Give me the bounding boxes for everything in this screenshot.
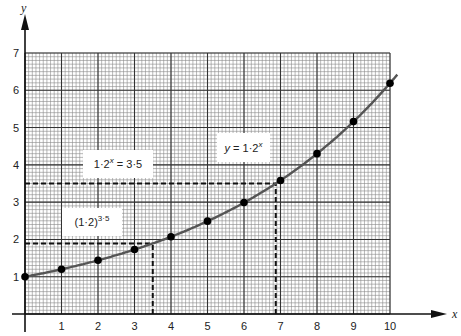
x-tick-label: 3: [131, 320, 137, 332]
data-point: [386, 79, 394, 87]
y-axis-arrow-icon: [21, 14, 29, 30]
reference-dashed-lines: [25, 184, 276, 315]
annotation-text: 1·2x = 3·5: [94, 156, 142, 170]
x-tick-label: 8: [314, 320, 320, 332]
data-point: [94, 257, 102, 265]
annotation-text: y = 1·2x: [224, 140, 264, 154]
x-tick-label: 7: [277, 320, 283, 332]
y-tick-label: 5: [13, 122, 19, 134]
data-point: [204, 217, 212, 225]
x-axis-arrow-icon: [431, 310, 447, 318]
data-point: [21, 273, 29, 281]
x-tick-label: 2: [95, 320, 101, 332]
y-tick-label: 6: [13, 84, 19, 96]
data-point: [131, 246, 139, 254]
data-point: [58, 265, 66, 273]
y-tick-label: 1: [13, 271, 19, 283]
y-tick-label: 4: [13, 159, 19, 171]
data-point: [313, 150, 321, 158]
axes: xy: [12, 1, 458, 332]
data-point: [167, 233, 175, 241]
data-point: [277, 177, 285, 185]
x-tick-label: 5: [204, 320, 210, 332]
x-tick-label: 10: [384, 320, 396, 332]
x-tick-label: 9: [350, 320, 356, 332]
x-tick-label: 1: [58, 320, 64, 332]
data-point: [350, 118, 358, 126]
x-tick-label: 4: [168, 320, 174, 332]
exponential-graph: xy 123456789101234567 y = 1·2x1·2x = 3·5…: [0, 0, 461, 336]
y-tick-label: 7: [13, 47, 19, 59]
x-tick-label: 6: [241, 320, 247, 332]
y-tick-label: 2: [13, 233, 19, 245]
y-axis-label: y: [20, 1, 27, 15]
y-tick-label: 3: [13, 196, 19, 208]
x-axis-label: x: [451, 307, 458, 321]
data-point: [240, 199, 248, 207]
